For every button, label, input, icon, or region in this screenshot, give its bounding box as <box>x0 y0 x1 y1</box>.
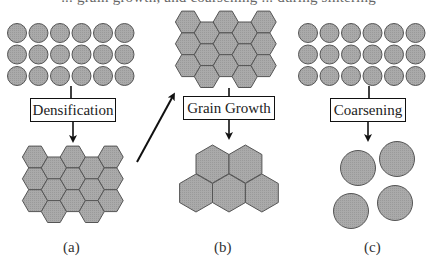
particle <box>320 24 339 43</box>
particle <box>29 45 48 64</box>
particle <box>115 24 134 43</box>
grain-growth-box: Grain Growth <box>183 96 275 120</box>
particle <box>342 45 361 64</box>
panel-b-initial-grains <box>175 11 276 87</box>
coarsening-box: Coarsening <box>330 98 406 122</box>
particle <box>94 45 113 64</box>
densification-label: Densification <box>33 102 114 119</box>
particle <box>406 24 425 43</box>
particle <box>342 67 361 86</box>
particle <box>406 67 425 86</box>
coarsening-label: Coarsening <box>334 102 402 119</box>
particle <box>29 24 48 43</box>
particle <box>363 24 382 43</box>
panel-b-label: (b) <box>214 239 232 256</box>
panel-c-coarsened-particles <box>334 142 415 229</box>
particle <box>341 151 376 186</box>
particle <box>363 67 382 86</box>
particle <box>320 67 339 86</box>
particle <box>29 67 48 86</box>
particle <box>380 142 415 177</box>
particle <box>378 186 413 221</box>
particle <box>406 45 425 64</box>
panel-c-initial-particles <box>299 24 426 86</box>
particle <box>385 67 404 86</box>
particle <box>299 24 318 43</box>
particle <box>385 24 404 43</box>
panel-c-label: (c) <box>364 239 381 256</box>
particle <box>8 45 27 64</box>
particle <box>299 67 318 86</box>
particle <box>72 67 91 86</box>
particle <box>342 24 361 43</box>
particle <box>299 45 318 64</box>
particle <box>51 67 70 86</box>
particle <box>72 45 91 64</box>
particle <box>363 45 382 64</box>
particle <box>51 24 70 43</box>
grain-growth-label: Grain Growth <box>187 100 271 117</box>
panel-a-densified-grains <box>22 146 123 222</box>
panel-a-initial-particles <box>8 24 135 86</box>
particle <box>72 24 91 43</box>
densification-box: Densification <box>30 98 116 122</box>
particle <box>8 24 27 43</box>
particle <box>94 67 113 86</box>
panel-a-label: (a) <box>63 239 80 256</box>
particle <box>334 194 369 229</box>
particle <box>51 45 70 64</box>
particle <box>320 45 339 64</box>
diagonal-arrow-a-to-b <box>137 96 173 162</box>
particle <box>385 45 404 64</box>
particle <box>115 67 134 86</box>
particle <box>94 24 113 43</box>
sintering-diagram: ... grain growth, and coarsening ... dur… <box>0 0 437 262</box>
particle <box>115 45 134 64</box>
panel-b-grown-grains <box>180 145 279 212</box>
diagram-artwork <box>0 0 437 262</box>
particle <box>8 67 27 86</box>
